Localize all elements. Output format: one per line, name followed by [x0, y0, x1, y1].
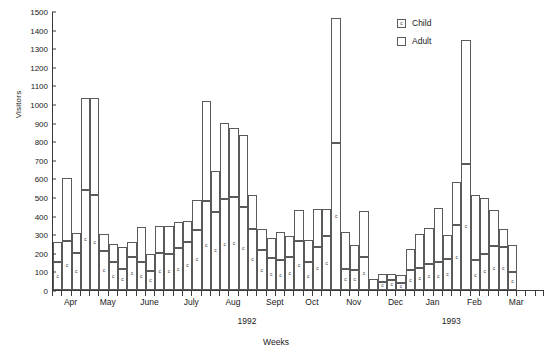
bar-column[interactable]: c [192, 200, 201, 290]
bar-segment-child[interactable]: c [350, 270, 359, 290]
bar-column[interactable]: c [396, 275, 405, 290]
bar-segment-child[interactable]: c [248, 229, 257, 290]
bar-segment-adult[interactable] [508, 245, 517, 272]
bar-segment-adult[interactable] [313, 209, 322, 247]
bar-segment-child[interactable]: c [257, 250, 266, 290]
bar-segment-adult[interactable] [211, 171, 220, 212]
bar-column[interactable]: c [220, 123, 229, 290]
bar-column[interactable]: c [99, 234, 108, 290]
bar-column[interactable]: c [164, 226, 173, 290]
bar-segment-child[interactable]: c [90, 195, 99, 290]
bar-segment-child[interactable]: c [81, 190, 90, 290]
bar-column[interactable]: c [155, 226, 164, 290]
bar-segment-child[interactable]: c [294, 241, 303, 290]
bar-column[interactable]: c [174, 222, 183, 290]
bar-column[interactable]: c [387, 274, 396, 290]
bar-segment-child[interactable]: c [53, 262, 62, 290]
bar-segment-adult[interactable] [62, 178, 71, 240]
bar-segment-adult[interactable] [285, 236, 294, 257]
bar-segment-child[interactable]: c [285, 257, 294, 290]
bar-segment-child[interactable]: c [415, 268, 424, 290]
bar-segment-child[interactable]: c [276, 260, 285, 290]
bar-column[interactable]: c [331, 18, 340, 290]
bar-segment-adult[interactable] [461, 40, 470, 164]
bar-segment-adult[interactable] [499, 229, 508, 248]
bar-column[interactable]: c [322, 209, 331, 290]
bar-segment-child[interactable]: c [434, 262, 443, 290]
bar-segment-adult[interactable] [452, 182, 461, 225]
legend-item[interactable]: Adult [397, 36, 431, 46]
bar-segment-child[interactable]: c [406, 270, 415, 290]
bar-segment-child[interactable]: c [489, 246, 498, 290]
bar-segment-adult[interactable] [146, 254, 155, 272]
bar-segment-child[interactable]: c [378, 282, 387, 290]
bar-segment-child[interactable]: c [452, 225, 461, 290]
bar-column[interactable]: c [239, 135, 248, 290]
bar-column[interactable]: c [62, 178, 71, 290]
bar-segment-child[interactable]: c [443, 259, 452, 290]
bar-segment-adult[interactable] [341, 232, 350, 268]
bar-column[interactable]: c [461, 40, 470, 290]
bar-segment-adult[interactable] [137, 227, 146, 262]
bar-segment-adult[interactable] [396, 275, 405, 282]
bar-column[interactable]: c [211, 171, 220, 290]
bar-column[interactable]: c [489, 210, 498, 290]
bar-column[interactable]: c [202, 101, 211, 290]
bar-segment-adult[interactable] [294, 210, 303, 241]
bar-segment-child[interactable]: c [239, 207, 248, 290]
bar-segment-child[interactable]: c [304, 262, 313, 290]
bar-segment-adult[interactable] [276, 232, 285, 260]
bar-segment-child[interactable]: c [118, 269, 127, 290]
bar-segment-child[interactable]: c [331, 143, 340, 290]
bar-segment-adult[interactable] [489, 210, 498, 246]
bar-column[interactable]: c [415, 234, 424, 290]
bar-segment-child[interactable]: c [174, 248, 183, 290]
bar-segment-child[interactable]: c [471, 260, 480, 290]
bar-segment-adult[interactable] [359, 211, 368, 257]
bar-segment-adult[interactable] [471, 195, 480, 260]
bar-column[interactable]: c [137, 227, 146, 290]
bar-column[interactable]: c [406, 249, 415, 290]
bar-segment-child[interactable]: c [322, 236, 331, 290]
bar-segment-adult[interactable] [369, 279, 378, 290]
bar-column[interactable]: c [359, 211, 368, 290]
bar-column[interactable]: c [304, 240, 313, 290]
bar-column[interactable]: c [443, 235, 452, 290]
legend-item[interactable]: cChild [397, 18, 431, 28]
bar-segment-adult[interactable] [267, 238, 276, 258]
bar-column[interactable]: c [53, 242, 62, 290]
bar-segment-adult[interactable] [53, 242, 62, 262]
bar-column[interactable]: c [471, 195, 480, 290]
bar-segment-adult[interactable] [174, 222, 183, 248]
bar-segment-adult[interactable] [239, 135, 248, 208]
bar-column[interactable]: c [257, 229, 266, 290]
bar-segment-child[interactable]: c [267, 258, 276, 290]
bar-column[interactable]: c [183, 221, 192, 290]
bar-segment-adult[interactable] [127, 242, 136, 257]
bar-segment-adult[interactable] [90, 98, 99, 195]
bar-column[interactable]: c [341, 232, 350, 290]
bar-segment-adult[interactable] [443, 235, 452, 259]
bar-column[interactable]: c [146, 254, 155, 290]
bar-segment-child[interactable]: c [72, 253, 81, 290]
bar-column[interactable]: c [72, 233, 81, 290]
bar-segment-child[interactable]: c [480, 254, 489, 290]
bar-segment-child[interactable]: c [461, 164, 470, 290]
bar-column[interactable]: c [378, 274, 387, 290]
bar-column[interactable]: c [248, 195, 257, 290]
bar-segment-child[interactable]: c [137, 262, 146, 290]
bar-column[interactable]: c [313, 209, 322, 290]
bar-segment-child[interactable]: c [155, 253, 164, 290]
bar-segment-child[interactable]: c [192, 230, 201, 290]
bar-column[interactable]: c [452, 182, 461, 290]
bar-segment-adult[interactable] [257, 229, 266, 250]
bar-column[interactable]: c [81, 98, 90, 290]
bar-column[interactable]: c [229, 128, 238, 290]
bar-segment-adult[interactable] [415, 234, 424, 267]
bar-column[interactable]: c [109, 244, 118, 290]
bar-segment-adult[interactable] [480, 198, 489, 254]
bar-segment-child[interactable]: c [211, 212, 220, 290]
bar-segment-child[interactable]: c [341, 269, 350, 290]
bar-segment-adult[interactable] [434, 208, 443, 262]
bar-segment-child[interactable]: c [220, 199, 229, 290]
